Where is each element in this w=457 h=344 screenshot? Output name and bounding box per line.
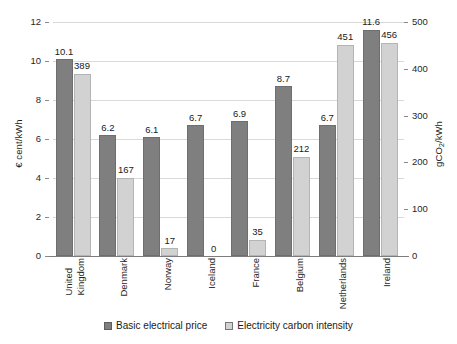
y-tick-mark-left xyxy=(45,217,49,218)
y-tick-mark-left xyxy=(45,178,49,179)
y-axis-right: 0100200300400500 xyxy=(404,22,454,256)
bar-group: 11.6456 xyxy=(360,22,404,256)
y-tick-mark-right xyxy=(404,162,408,163)
bar-electricity-carbon-intensity xyxy=(161,248,178,256)
category-label: France xyxy=(250,258,261,288)
legend-swatch-icon xyxy=(225,322,233,330)
category-label-line: Kingdom xyxy=(75,258,87,296)
plot-area: 10.13896.21676.1176.706.9358.72126.74511… xyxy=(53,22,404,256)
y-tick-label-right: 300 xyxy=(412,111,428,121)
category-label-line: Denmark xyxy=(118,258,129,297)
y-axis-left: 024681012 xyxy=(0,22,49,256)
y-tick-label-left: 10 xyxy=(30,56,41,66)
y-tick-label-right: 200 xyxy=(412,157,428,167)
bar-electricity-carbon-intensity xyxy=(74,74,91,256)
y-tick-mark-left xyxy=(45,22,49,23)
axis-end-cap xyxy=(49,256,54,257)
category-label-line: Ireland xyxy=(381,258,392,287)
chart-legend: Basic electrical priceElectricity carbon… xyxy=(0,320,457,331)
bar-electricity-carbon-intensity xyxy=(337,45,354,256)
y-tick-label-left: 2 xyxy=(36,212,41,222)
bar-chart: € cent/kWh gCO2/kWh 024681012 0100200300… xyxy=(0,0,457,344)
x-axis-categories: UnitedKingdomDenmarkNorwayIcelandFranceB… xyxy=(53,258,404,320)
data-label-price: 8.7 xyxy=(269,74,298,84)
category-label-line: United xyxy=(63,258,75,296)
y-tick-mark-right xyxy=(404,22,408,23)
data-label-carbon: 17 xyxy=(155,236,184,246)
data-label-carbon: 0 xyxy=(199,244,228,254)
y-tick-mark-right xyxy=(404,69,408,70)
bar-group: 6.7451 xyxy=(316,22,360,256)
data-label-carbon: 389 xyxy=(68,61,97,71)
y-tick-label-left: 8 xyxy=(36,95,41,105)
bar-group: 6.70 xyxy=(185,22,229,256)
bar-basic-electrical-price xyxy=(99,135,116,256)
data-label-carbon: 167 xyxy=(111,165,140,175)
legend-swatch-icon xyxy=(104,322,112,330)
category-label-line: Norway xyxy=(162,258,173,290)
category-label: Belgium xyxy=(294,258,305,292)
y-tick-mark-left xyxy=(45,100,49,101)
bar-group: 10.1389 xyxy=(53,22,97,256)
bar-electricity-carbon-intensity xyxy=(249,240,266,256)
y-tick-mark-left xyxy=(45,61,49,62)
data-label-carbon: 451 xyxy=(331,32,360,42)
bar-electricity-carbon-intensity xyxy=(117,178,134,256)
legend-label: Electricity carbon intensity xyxy=(237,320,353,331)
category-label: Norway xyxy=(162,258,173,290)
bar-group: 6.935 xyxy=(229,22,273,256)
bar-basic-electrical-price xyxy=(56,59,73,256)
category-label-line: Belgium xyxy=(294,258,305,292)
category-label: Netherlands xyxy=(337,258,348,309)
y-tick-mark-left xyxy=(45,139,49,140)
bar-basic-electrical-price xyxy=(363,30,380,256)
y-tick-label-left: 6 xyxy=(36,134,41,144)
data-label-carbon: 212 xyxy=(287,144,316,154)
data-label-price: 6.2 xyxy=(93,123,122,133)
category-label: Denmark xyxy=(118,258,129,297)
legend-item[interactable]: Electricity carbon intensity xyxy=(225,320,353,331)
bar-electricity-carbon-intensity xyxy=(293,157,310,256)
category-label: Iceland xyxy=(206,258,217,289)
data-label-price: 6.9 xyxy=(225,109,254,119)
bar-basic-electrical-price xyxy=(187,125,204,256)
legend-item[interactable]: Basic electrical price xyxy=(104,320,207,331)
category-label: Ireland xyxy=(381,258,392,287)
y-tick-label-right: 500 xyxy=(412,17,428,27)
category-label-line: Netherlands xyxy=(337,258,348,309)
y-tick-label-left: 4 xyxy=(36,173,41,183)
data-label-carbon: 35 xyxy=(243,227,272,237)
x-axis-line xyxy=(53,256,404,257)
y-tick-label-right: 400 xyxy=(412,64,428,74)
bar-group: 6.117 xyxy=(141,22,185,256)
bar-electricity-carbon-intensity xyxy=(381,43,398,256)
bar-group: 8.7212 xyxy=(272,22,316,256)
y-tick-label-right: 0 xyxy=(412,251,417,261)
data-label-price: 6.7 xyxy=(181,113,210,123)
bar-basic-electrical-price xyxy=(275,86,292,256)
bar-group: 6.2167 xyxy=(97,22,141,256)
data-label-carbon: 456 xyxy=(375,30,404,40)
data-label-price: 11.6 xyxy=(357,17,386,27)
y-tick-mark-right xyxy=(404,116,408,117)
y-tick-label-left: 12 xyxy=(30,17,41,27)
y-tick-label-right: 100 xyxy=(412,204,428,214)
axis-end-cap xyxy=(404,256,409,257)
y-tick-label-left: 0 xyxy=(36,251,41,261)
y-tick-mark-right xyxy=(404,209,408,210)
data-label-price: 10.1 xyxy=(50,47,79,57)
legend-label: Basic electrical price xyxy=(116,320,207,331)
category-label-line: Iceland xyxy=(206,258,217,289)
category-label-line: France xyxy=(250,258,261,288)
data-label-price: 6.1 xyxy=(137,125,166,135)
bar-basic-electrical-price xyxy=(319,125,336,256)
category-label: UnitedKingdom xyxy=(63,258,86,296)
